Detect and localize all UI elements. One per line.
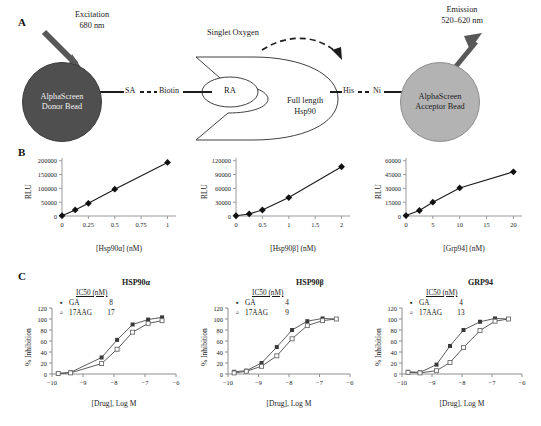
hsp90-line1: Full length	[268, 96, 342, 107]
hsp90-label: Full length Hsp90	[268, 96, 342, 118]
svg-text:0.5: 0.5	[258, 221, 266, 228]
excitation-line1: Excitation	[46, 10, 138, 21]
svg-text:40: 40	[217, 349, 223, 356]
x-axis-label: [Drug], Log M	[228, 399, 350, 408]
y-axis-label: % Inhibition	[374, 328, 383, 366]
svg-text:50000: 50000	[41, 199, 57, 206]
svg-text:120: 120	[37, 305, 47, 312]
svg-text:0: 0	[398, 213, 401, 220]
svg-text:1.5: 1.5	[311, 221, 319, 228]
filled-square-marker-icon: ▪	[236, 298, 245, 308]
donor-bead-line2: Donor Bead	[42, 102, 82, 112]
sa-label: SA	[124, 86, 136, 95]
svg-text:90000: 90000	[215, 171, 231, 178]
ni-label: Ni	[372, 86, 382, 95]
svg-text:120: 120	[387, 305, 397, 312]
x-axis-label: [Grp94] (nM)	[406, 244, 522, 253]
alphascreen-donor-bead: AlphaScreen Donor Bead	[22, 62, 102, 142]
svg-text:0.5: 0.5	[111, 221, 119, 228]
acceptor-bead-line2: Acceptor Bead	[415, 102, 465, 112]
legend-item: ▪GA4	[236, 298, 295, 308]
svg-text:0: 0	[228, 213, 231, 220]
x-axis-label: [Drug], Log M	[402, 399, 522, 408]
svg-text:1: 1	[287, 221, 290, 228]
filled-square-marker-icon: ▪	[410, 298, 419, 308]
svg-text:−9: −9	[255, 379, 262, 386]
chart-hsp90alpha-inhibition: 020406080100120−10−9−8−7−6HSP90αIC50 (nM…	[22, 278, 184, 398]
svg-text:30000: 30000	[385, 185, 401, 192]
svg-text:60: 60	[217, 338, 223, 345]
y-axis-label: % Inhibition	[200, 328, 209, 366]
svg-text:20: 20	[41, 360, 47, 367]
svg-text:0: 0	[54, 213, 57, 220]
svg-text:0: 0	[220, 371, 223, 378]
legend-item: ▫17AAG9	[236, 308, 295, 318]
ic50-legend: IC50 (nM)▪GA4▫17AAG9	[236, 288, 295, 318]
svg-text:5: 5	[431, 221, 434, 228]
alphascreen-assay-diagram: AlphaScreen Donor Bead AlphaScreen Accep…	[0, 0, 541, 148]
y-axis-label: RLU	[374, 184, 383, 199]
svg-text:−7: −7	[142, 379, 150, 386]
svg-text:1: 1	[166, 221, 169, 228]
legend-item: ▪GA4	[410, 298, 469, 308]
legend-series-name: GA	[69, 298, 103, 308]
chart-title: HSP90α	[122, 278, 150, 287]
svg-text:−10: −10	[47, 379, 57, 386]
svg-text:−10: −10	[397, 379, 407, 386]
emission-line2: 520–620 nm	[412, 16, 512, 27]
legend-ic50-value: 17	[103, 308, 119, 318]
legend-series-name: GA	[245, 298, 279, 308]
svg-text:30000: 30000	[215, 199, 231, 206]
svg-text:0: 0	[404, 221, 407, 228]
excitation-line2: 680 nm	[46, 21, 138, 32]
svg-text:2: 2	[340, 221, 343, 228]
legend-ic50-value: 9	[279, 308, 295, 318]
svg-text:−7: −7	[316, 379, 324, 386]
y-axis-label: RLU	[200, 184, 209, 199]
chart-hsp90beta-inhibition: 020406080100120−10−9−8−7−6HSP90βIC50 (nM…	[198, 278, 358, 398]
svg-text:60: 60	[391, 338, 397, 345]
legend-series-name: 17AAG	[245, 308, 279, 318]
svg-text:−6: −6	[347, 379, 354, 386]
svg-text:0: 0	[44, 371, 47, 378]
svg-text:0: 0	[60, 221, 63, 228]
legend-title: IC50 (nM)	[410, 288, 469, 298]
legend-title: IC50 (nM)	[236, 288, 295, 298]
svg-text:45000: 45000	[385, 171, 401, 178]
excitation-label: Excitation 680 nm	[46, 10, 138, 32]
svg-text:−9: −9	[80, 379, 87, 386]
svg-text:60000: 60000	[385, 157, 401, 164]
svg-text:80: 80	[217, 327, 223, 334]
svg-text:40: 40	[41, 349, 47, 356]
chart-grp94-titration: 01500030000450006000005101520RLU[Grp94] …	[372, 150, 530, 242]
svg-text:15: 15	[483, 221, 489, 228]
y-axis-label: % Inhibition	[24, 328, 33, 366]
svg-text:−7: −7	[489, 379, 497, 386]
hsp90-line2: Hsp90	[268, 107, 342, 118]
svg-text:100: 100	[213, 316, 223, 323]
svg-text:60: 60	[41, 338, 47, 345]
svg-text:40: 40	[391, 349, 397, 356]
legend-series-name: 17AAG	[419, 308, 453, 318]
svg-text:0: 0	[394, 371, 397, 378]
ra-label: RA	[224, 85, 236, 95]
svg-text:−6: −6	[173, 379, 180, 386]
svg-text:−8: −8	[459, 379, 466, 386]
svg-text:80: 80	[41, 327, 47, 334]
legend-ic50-value: 8	[103, 298, 119, 308]
legend-item: ▫17AAG17	[60, 308, 119, 318]
svg-text:10: 10	[457, 221, 463, 228]
biotin-label: Biotin	[158, 86, 180, 95]
svg-text:100000: 100000	[38, 185, 57, 192]
y-axis-label: RLU	[24, 184, 33, 199]
svg-text:20: 20	[510, 221, 516, 228]
svg-text:15000: 15000	[385, 199, 401, 206]
his-label: His	[342, 86, 355, 95]
x-axis-label: [Drug], Log M	[52, 399, 176, 408]
legend-ic50-value: 13	[453, 308, 469, 318]
svg-text:80: 80	[391, 327, 397, 334]
svg-text:100: 100	[37, 316, 47, 323]
open-square-marker-icon: ▫	[60, 308, 69, 318]
svg-text:0: 0	[234, 221, 237, 228]
alphascreen-acceptor-bead: AlphaScreen Acceptor Bead	[400, 62, 480, 142]
